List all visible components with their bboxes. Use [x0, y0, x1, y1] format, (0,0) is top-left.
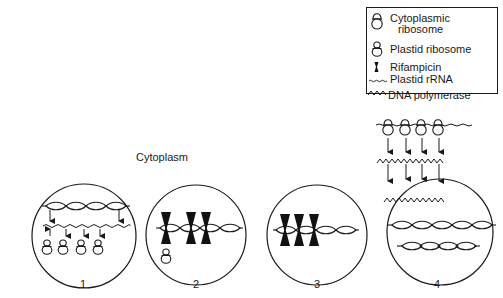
- legend-label-plastid-rrna: Plastid rRNA: [390, 73, 454, 85]
- plastid-ribosome-icon: [372, 42, 382, 56]
- panel-1-number: 1: [80, 278, 86, 290]
- cytoplasmic-ribosome-icon: [372, 14, 382, 29]
- panel-4-number: 4: [434, 278, 440, 290]
- plastid-ribosomes: [42, 240, 103, 254]
- legend-label-rifampicin: Rifampicin: [390, 61, 441, 73]
- diagram-canvas: Cytoplasmic ribosome Plastid ribosome Ri…: [0, 0, 503, 298]
- panel-2-number: 2: [193, 278, 199, 290]
- plastid-ribosome: [161, 249, 171, 263]
- dna-polymerase-plastid: [384, 198, 444, 202]
- panel-4-plastid: [376, 120, 496, 285]
- plastid-dna: [42, 202, 130, 210]
- legend-box: Cytoplasmic ribosome Plastid ribosome Ri…: [367, 8, 498, 96]
- rifampicin-molecules: [280, 214, 319, 246]
- plastid-rrna: [43, 225, 130, 228]
- legend-label-dna-polymerase: DNA polymerase: [388, 89, 471, 101]
- cytoplasmic-mrna-with-ribosomes: [376, 120, 472, 135]
- plastid-dna-copy-1: [387, 221, 496, 229]
- cytoplasm-label: Cytoplasm: [136, 151, 188, 163]
- plastid-dna-copy-2: [397, 242, 480, 250]
- legend-label-plastid-ribosome: Plastid ribosome: [390, 43, 471, 55]
- dna-polymerase-cytoplasm: [377, 159, 443, 163]
- plastid-dna: [156, 224, 243, 232]
- rifampicin-molecules: [161, 212, 211, 244]
- panel-3-plastid: [267, 185, 367, 285]
- panel-2-plastid: [146, 185, 246, 285]
- panel-1-plastid: [32, 184, 136, 288]
- panel-3-number: 3: [314, 278, 320, 290]
- legend-label-cytoplasmic-ribosome-line2: ribosome: [398, 23, 443, 35]
